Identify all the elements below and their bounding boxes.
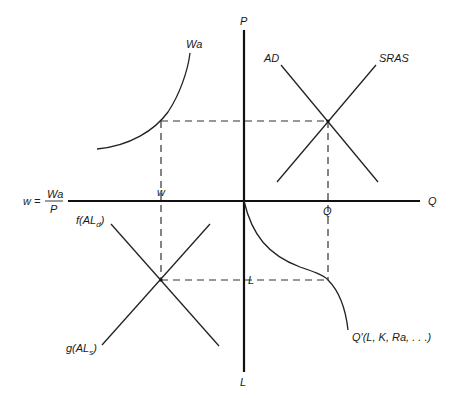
svg-text:f(ALd): f(ALd) [76,214,105,229]
real-wage-axis-label: w = Wa P [23,188,63,215]
labor-supply-curve [102,224,210,345]
ad-curve [281,65,378,182]
four-quadrant-macro-diagram: P L Q w = Wa P Wa AD SRAS f(ALd) g(ALs) … [0,0,456,398]
sras-curve [277,65,376,182]
labor-demand-label: f(ALd) [76,214,105,229]
wa-curve [97,53,190,149]
q-marker: Q [323,205,332,217]
l-axis-label: L [240,376,246,388]
wa-curve-label: Wa [186,38,202,50]
p-axis-label: P [240,15,248,27]
labor-demand-curve [111,224,219,346]
production-function-curve [244,201,348,330]
labor-supply-label: g(ALs) [66,342,97,357]
goods-market-equilibrium [326,119,329,122]
ad-label: AD [263,52,279,64]
q-axis-label: Q [428,195,437,207]
w-equals: w = [23,195,41,207]
labor-market-equilibrium [159,278,162,281]
w-marker: w [157,186,166,198]
production-function-label: Q'(L, K, Ra, . . .) [352,331,431,343]
svg-text:g(ALs): g(ALs) [66,342,97,357]
sras-label: SRAS [379,52,410,64]
p-denominator: P [50,203,58,215]
wa-numerator: Wa [47,188,63,200]
l-marker: L [248,274,254,286]
